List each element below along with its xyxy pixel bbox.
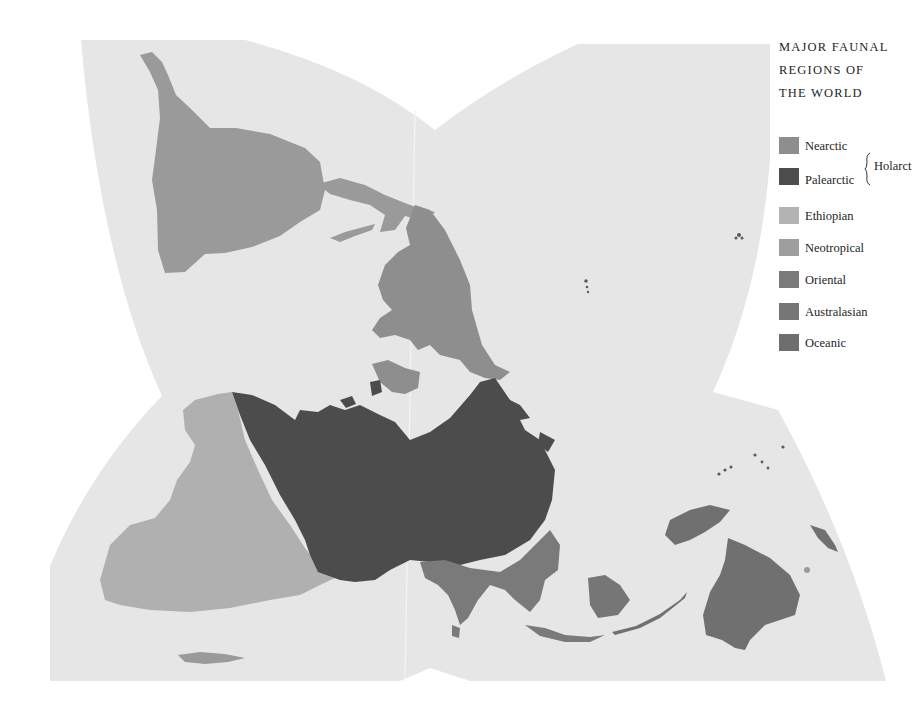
legend-title-line-1: MAJOR FAUNAL [779, 36, 921, 59]
swatch-oceanic [779, 334, 799, 351]
legend-item-australasian: Australasian [779, 303, 919, 323]
legend-item-ethiopian: Ethiopian [779, 207, 919, 227]
legend-item-oceanic: Oceanic [779, 334, 919, 354]
faunal-regions-map [0, 0, 921, 712]
swatch-australasian [779, 303, 799, 320]
swatch-neotropical [779, 239, 799, 256]
legend-label: Palearctic [805, 173, 854, 188]
legend-item-nearctic: Nearctic [779, 137, 919, 157]
new-caledonia [804, 567, 810, 573]
holarctic-brace-icon [864, 152, 872, 186]
swatch-ethiopian [779, 207, 799, 224]
legend-item-oriental: Oriental [779, 271, 919, 291]
legend-label: Neotropical [805, 241, 864, 256]
legend: MAJOR FAUNAL REGIONS OF THE WORLD Nearct… [779, 36, 921, 105]
legend-label: Oriental [805, 273, 846, 288]
legend-label: Nearctic [805, 139, 847, 154]
legend-label: Ethiopian [805, 209, 854, 224]
swatch-oriental [779, 271, 799, 288]
legend-title-line-3: THE WORLD [779, 82, 921, 105]
legend-label: Oceanic [805, 336, 846, 351]
holarctic-label: Holarct [874, 159, 911, 174]
legend-label: Australasian [805, 305, 867, 320]
swatch-palearctic [779, 168, 799, 185]
swatch-nearctic [779, 137, 799, 154]
legend-title-line-2: REGIONS OF [779, 59, 921, 82]
legend-item-neotropical: Neotropical [779, 239, 919, 259]
